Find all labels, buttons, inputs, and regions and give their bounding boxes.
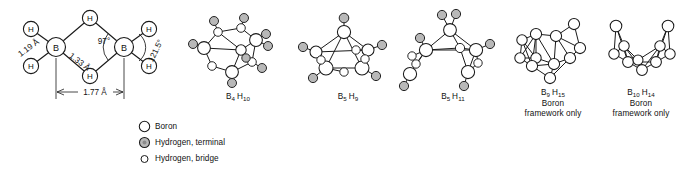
atom-hydrogen-terminal [228,79,237,88]
formula-b-sub: 10 [633,91,640,98]
caption-note-line1: Boron [596,99,686,110]
atom-hydrogen-terminal [415,33,424,42]
formula-b: B [541,88,547,97]
circle-open-small-icon [138,152,151,165]
atom-boron [403,67,416,80]
atom-boron [198,42,211,55]
atom-hydrogen-terminal [399,81,408,90]
formula-b: B [441,92,447,101]
atom-hydrogen-bridge [352,46,360,54]
atom-hydrogen-terminal [210,17,219,26]
caption-b5h9: B5 H9 [296,92,400,103]
atom-hydrogen-terminal [242,54,250,62]
atom-label-h-top-bridge: H [87,14,93,23]
legend-label-hydrogen-bridge: Hydrogen, bridge [155,154,219,163]
atom-hydrogen-terminal [308,73,317,82]
atom-hydrogen-bridge [340,68,348,76]
legend-item-hydrogen-bridge: Hydrogen, bridge [138,150,225,166]
atom-boron [564,52,575,63]
atom-boron [550,30,561,41]
formula-h-sub: 9 [355,95,359,102]
formula-b: B [627,88,633,97]
atom-boron [530,28,541,39]
atom-label-h-right-lower: H [146,62,152,71]
formula-b: B [226,92,232,101]
atom-hydrogen-bridge [214,28,223,37]
atom-label-boron-right: B [121,43,127,53]
atom-boron [574,42,585,53]
borane-structures-figure: B B H H H H H H 1.19 Å 1.33 Å 97° 121.5°… [0,0,686,169]
formula-b-sub: 5 [447,95,451,102]
atom-boron [619,41,629,51]
atom-hydrogen-terminal [459,81,468,90]
atom-boron [337,25,350,38]
caption-b9h15: B9 H15 Boron framework only [505,88,601,120]
formula-h-sub: 14 [648,91,655,98]
atom-boron [609,49,619,59]
circle-open-large-icon [138,120,151,133]
atom-boron [444,24,457,37]
atom-hydrogen-terminal [264,42,273,51]
atom-boron [610,20,622,32]
atom-hydrogen-bridge [412,60,420,68]
diborane-structure: B B H H H H H H 1.19 Å 1.33 Å 97° 121.5°… [0,0,180,115]
atom-hydrogen-bridge [474,59,482,67]
atom-boron [633,55,643,65]
formula-b-sub: 5 [343,95,347,102]
formula-b-sub: 9 [547,91,551,98]
atom-hydrogen-terminal [298,42,307,51]
formula-h-sub: 10 [243,95,250,102]
formula-h: H [237,92,243,101]
formula-h: H [349,92,355,101]
caption-b10h14: B10 H14 Boron framework only [596,88,686,120]
atom-hydrogen-terminal [258,64,267,73]
atom-boron [526,60,537,71]
atom-hydrogen-bridge [361,55,369,63]
atom-hydrogen-terminal [339,13,349,23]
atom-hydrogen-bridge [455,43,464,52]
structure-b5h11 [398,8,508,92]
caption-b5h11: B5 H11 [398,92,508,103]
atom-label-h-left-lower: H [28,62,34,71]
atom-boron [651,57,662,68]
caption-b4h10: B4 H10 [186,92,290,103]
atom-label-h-bottom-bridge: H [87,72,93,81]
atom-boron [548,58,559,69]
atom-hydrogen-bridge [317,56,325,64]
atom-hydrogen-terminal [485,39,494,48]
circle-shaded-icon [138,136,151,149]
measurement-terminal-angle: 121.5° [146,38,165,63]
caption-note-line1: Boron [505,99,601,110]
atom-hydrogen-terminal [451,9,460,18]
atom-boron [623,57,634,68]
atom-label-h-left-upper: H [28,25,34,34]
structure-b4h10 [186,14,290,90]
atom-label-boron-left: B [53,43,59,53]
legend: Boron Hydrogen, terminal Hydrogen, bridg… [138,118,225,166]
legend-label-hydrogen-terminal: Hydrogen, terminal [155,138,225,147]
atom-hydrogen-terminal [377,40,386,49]
atom-hydrogen-terminal [262,30,271,39]
formula-h: H [642,88,648,97]
atom-boron [655,41,665,51]
atom-boron [662,20,674,32]
measurement-terminal-bond: 1.19 Å [16,36,41,58]
atom-hydrogen-terminal [240,14,249,23]
measurement-boron-boron: 1.77 Å [83,87,107,97]
atom-label-h-right-upper: H [146,25,152,34]
atom-boron [461,65,474,78]
structure-b10h14 [604,14,680,86]
atom-boron [362,44,374,56]
caption-note-line2: framework only [505,109,601,120]
atom-boron [250,34,263,47]
atom-boron [517,35,527,45]
atom-hydrogen-terminal [189,40,198,49]
atom-boron [568,18,579,29]
formula-h-sub: 15 [558,91,565,98]
measurement-bridge-angle: 97° [98,37,110,46]
atom-boron [226,66,239,79]
formula-b-sub: 4 [232,95,236,102]
atom-boron [469,43,482,56]
atom-boron [665,49,675,59]
formula-h: H [552,88,558,97]
